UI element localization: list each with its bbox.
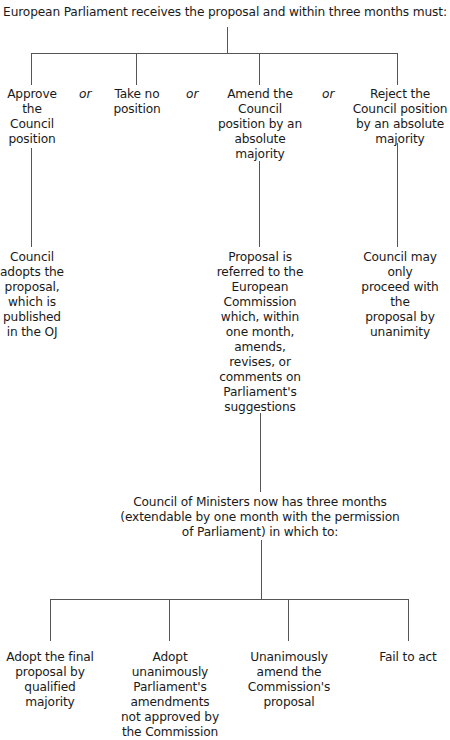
branch-fail (408, 599, 409, 641)
line: Commission (210, 295, 310, 310)
branch-no-position (136, 53, 137, 85)
line: Council position (350, 102, 450, 117)
line: majority (350, 132, 450, 147)
line: proposal, (0, 280, 64, 295)
line: by an absolute (350, 117, 450, 132)
line: published (0, 310, 64, 325)
line: Commission's (243, 680, 335, 695)
line: Take no (106, 87, 168, 102)
line: amend the (243, 665, 335, 680)
line: absolute (214, 132, 306, 147)
line: Council (0, 250, 64, 265)
line: referred to the (210, 265, 310, 280)
line: Council of Ministers now has three month… (120, 495, 400, 510)
line: proposal by (4, 665, 96, 680)
line: position (106, 102, 168, 117)
line: Adopt the final (4, 650, 96, 665)
option-no-position: Take no position (106, 87, 168, 117)
line: qualified (4, 680, 96, 695)
commission-to-council-line (260, 413, 261, 492)
line: Council may only (350, 250, 450, 280)
line: one month, (210, 325, 310, 340)
line: Adopt (120, 650, 220, 665)
line: not approved by (120, 710, 220, 725)
line: European (210, 280, 310, 295)
or-connector-2: or (186, 87, 198, 102)
final-unanimous-amend: Unanimously amend the Commission's propo… (243, 650, 335, 710)
line: the Commission (120, 725, 220, 740)
top-branch-line (31, 53, 398, 54)
branch-amend (259, 53, 260, 85)
line: Unanimously (243, 650, 335, 665)
line: majority (4, 695, 96, 710)
line: which, within (210, 310, 310, 325)
reject-outcome-line (397, 143, 398, 247)
outcome-amend: Proposal is referred to the European Com… (210, 250, 310, 415)
line: majority (214, 147, 306, 162)
final-unanimous-adopt: Adopt unanimously Parliament's amendment… (120, 650, 220, 740)
amend-outcome-line (259, 161, 260, 247)
line: adopts the (0, 265, 64, 280)
option-approve: Approve the Council position (0, 87, 64, 147)
or-connector-1: or (79, 87, 91, 102)
line: the (0, 102, 64, 117)
branch-unanimous-adopt (169, 599, 170, 641)
or-connector-3: or (322, 87, 334, 102)
line: position by an (214, 117, 306, 132)
line: proposal by (350, 310, 450, 325)
line: amendments (120, 695, 220, 710)
line: Proposal is (210, 250, 310, 265)
bottom-branch-line (50, 599, 409, 600)
final-qualified-majority: Adopt the final proposal by qualified ma… (4, 650, 96, 710)
line: amends, (210, 340, 310, 355)
line: position (0, 132, 64, 147)
branch-qualified (50, 599, 51, 641)
line: in the OJ (0, 325, 64, 340)
council-stage: Council of Ministers now has three month… (120, 495, 400, 540)
line: revises, or (210, 355, 310, 370)
root-node: European Parliament receives the proposa… (0, 5, 450, 20)
option-reject: Reject the Council position by an absolu… (350, 87, 450, 147)
line: which is (0, 295, 64, 310)
line: comments on (210, 370, 310, 385)
line: proposal (243, 695, 335, 710)
branch-reject (397, 53, 398, 85)
option-amend: Amend the Council position by an absolut… (214, 87, 306, 162)
line: Council (0, 117, 64, 132)
line: Approve (0, 87, 64, 102)
line: Parliament's (120, 680, 220, 695)
line: unanimity (350, 325, 450, 340)
line: Amend the (214, 87, 306, 102)
root-stem (227, 27, 228, 53)
line: Reject the (350, 87, 450, 102)
line: unanimously (120, 665, 220, 680)
branch-approve (31, 53, 32, 85)
branch-unanimous-amend (288, 599, 289, 641)
line: (extendable by one month with the permis… (120, 510, 400, 525)
line: Council (214, 102, 306, 117)
line: Fail to act (368, 650, 448, 665)
line: Parliament's (210, 385, 310, 400)
line: of Parliament) in which to: (120, 525, 400, 540)
council-stem (261, 540, 262, 600)
outcome-reject: Council may only proceed with the propos… (350, 250, 450, 340)
outcome-approve: Council adopts the proposal, which is pu… (0, 250, 64, 340)
approve-outcome-line (31, 148, 32, 247)
final-fail-to-act: Fail to act (368, 650, 448, 665)
line: proceed with the (350, 280, 450, 310)
